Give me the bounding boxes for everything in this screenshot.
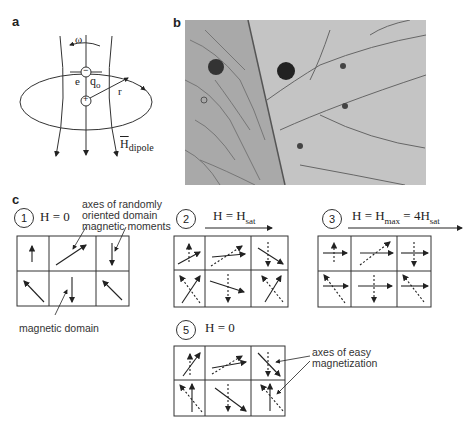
domain-grids <box>0 0 475 432</box>
